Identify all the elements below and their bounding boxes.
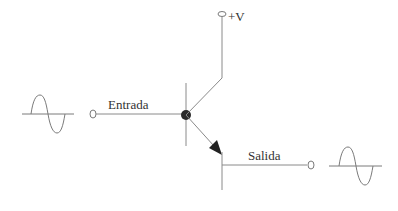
input-label: Entrada [108,97,149,112]
input-sine-wave-icon [22,95,74,133]
input-terminal [90,110,96,118]
output-sine-wave-icon [329,147,382,185]
supply-terminal [218,12,226,17]
collector-lead [186,17,222,115]
output-terminal [308,161,314,169]
output-label: Salida [248,148,281,163]
supply-label: +V [228,9,245,24]
emitter-lead [186,115,222,190]
transistor-circuit-diagram: Entrada +V Salida [0,0,398,211]
